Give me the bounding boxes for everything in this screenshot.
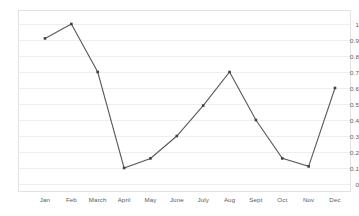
data-point-marker	[202, 104, 205, 107]
data-point-marker	[255, 119, 258, 122]
series-markers	[44, 23, 337, 170]
data-point-marker	[176, 135, 179, 138]
data-point-marker	[44, 37, 47, 40]
series-line	[45, 24, 335, 168]
data-point-marker	[334, 87, 337, 90]
data-point-marker	[281, 157, 284, 160]
data-point-marker	[228, 71, 231, 74]
data-point-marker	[149, 157, 152, 160]
data-point-marker	[307, 165, 310, 168]
data-series-layer	[0, 0, 359, 216]
data-point-marker	[123, 167, 126, 170]
data-point-marker	[70, 23, 73, 26]
data-point-marker	[96, 71, 99, 74]
line-chart: 00.10.20.30.40.50.60.70.80.91 JanFebMarc…	[0, 0, 359, 216]
